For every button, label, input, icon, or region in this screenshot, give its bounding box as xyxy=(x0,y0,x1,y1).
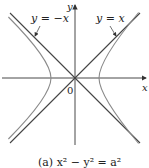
label-y-eq-x: y = x xyxy=(95,12,125,25)
x-axis-label: x xyxy=(142,82,148,93)
pointer-neg-x xyxy=(35,26,40,36)
figure-caption: (a) x² − y² = a² xyxy=(38,156,121,168)
pointer-pos-x xyxy=(110,26,116,36)
label-y-eq-neg-x: y = −x xyxy=(30,12,70,25)
hyperbola-diagram: y = −x y = x y x 0 (a) x² − y² = a² xyxy=(0,0,149,168)
y-axis-label: y xyxy=(66,1,73,12)
origin-label: 0 xyxy=(67,85,73,96)
